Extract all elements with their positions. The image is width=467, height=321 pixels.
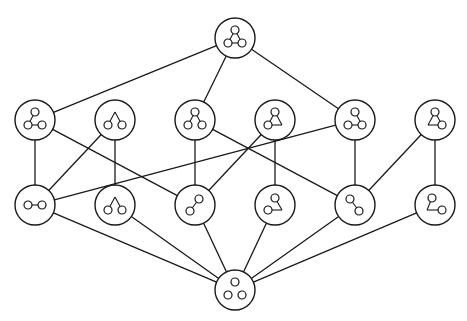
graph-node-bottom [215, 270, 255, 310]
graph-node-r3d [255, 185, 295, 225]
node-circle [255, 185, 295, 225]
node-circle [415, 185, 455, 225]
graph-vertex [186, 207, 194, 215]
graph-node-r2a [15, 100, 55, 140]
graph-lattice-diagram [0, 0, 467, 321]
lattice-edge-r3d-bottom [244, 223, 267, 272]
graph-vertex [264, 121, 272, 129]
graph-node-r2e [335, 100, 375, 140]
graph-vertex [355, 207, 363, 215]
graph-vertex [231, 26, 239, 34]
graph-vertex [271, 194, 279, 202]
graph-vertex [264, 206, 272, 214]
graph-node-r2f [415, 100, 455, 140]
graph-vertex [118, 206, 126, 214]
lattice-edge-top-r2e [252, 49, 339, 108]
graph-vertex [438, 121, 446, 129]
graph-node-r3a [15, 185, 55, 225]
graph-node-r3e [335, 185, 375, 225]
lattice-edge-r2d-r3c [209, 135, 262, 191]
node-circle [15, 100, 55, 140]
graph-node-top [215, 18, 255, 58]
graph-vertex [38, 201, 46, 209]
node-circle [95, 185, 135, 225]
graph-vertex [195, 195, 203, 203]
graph-vertex [118, 121, 126, 129]
graph-node-r2d [255, 100, 295, 140]
graph-vertex [351, 108, 359, 116]
node-circle [255, 100, 295, 140]
lattice-edge-r2f-r3e [369, 135, 422, 191]
edges-layer [35, 46, 435, 283]
graph-vertex [38, 121, 46, 129]
graph-node-r3b [95, 185, 135, 225]
graph-vertex [31, 108, 39, 116]
graph-vertex [238, 291, 246, 299]
node-circle [415, 100, 455, 140]
lattice-edge-r3b-bottom [131, 217, 218, 279]
graph-node-r3f [415, 185, 455, 225]
graph-vertex [346, 195, 354, 203]
lattice-edge-r3c-bottom [204, 223, 227, 272]
graph-vertex [271, 108, 279, 116]
node-circle [175, 100, 215, 140]
node-circle [215, 270, 255, 310]
graph-vertex [24, 201, 32, 209]
graph-vertex [224, 39, 232, 47]
graph-vertex [231, 278, 239, 286]
graph-vertex [431, 108, 439, 116]
node-circle [335, 100, 375, 140]
graph-node-r2b [95, 100, 135, 140]
graph-vertex [24, 121, 32, 129]
node-circle [215, 18, 255, 58]
lattice-edge-r2b-r3a [49, 135, 102, 191]
graph-vertex [198, 121, 206, 129]
node-circle [95, 100, 135, 140]
graph-vertex [191, 108, 199, 116]
nodes-layer [15, 18, 455, 310]
graph-node-r2c [175, 100, 215, 140]
graph-vertex [344, 121, 352, 129]
graph-vertex [358, 121, 366, 129]
graph-node-r3c [175, 185, 215, 225]
lattice-edge-top-r2c [204, 56, 226, 102]
graph-vertex [104, 206, 112, 214]
graph-vertex [238, 39, 246, 47]
graph-vertex [438, 206, 446, 214]
lattice-edge-r3e-bottom [251, 217, 338, 279]
graph-vertex [184, 121, 192, 129]
graph-vertex [224, 291, 232, 299]
graph-vertex [428, 194, 436, 202]
graph-vertex [104, 121, 112, 129]
